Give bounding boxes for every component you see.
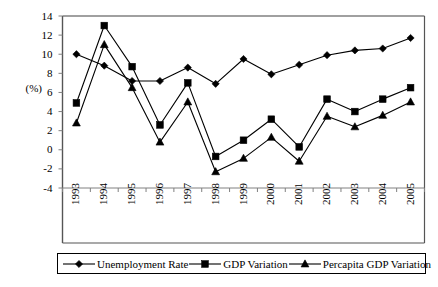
legend-marker-square-icon bbox=[188, 258, 222, 270]
data-point-square bbox=[324, 96, 331, 103]
data-point-diamond bbox=[379, 45, 386, 52]
x-axis-tick-label: 1993 bbox=[70, 183, 81, 205]
data-point-square bbox=[101, 22, 108, 29]
x-axis-tick-label: 2003 bbox=[349, 183, 360, 205]
data-point-square bbox=[157, 122, 164, 129]
legend-marker-triangle-icon bbox=[288, 258, 322, 270]
data-point-square bbox=[73, 100, 80, 107]
legend-label: Percapita GDP Variation bbox=[322, 258, 431, 270]
legend-item-triangle[interactable]: Percapita GDP Variation bbox=[288, 258, 431, 270]
data-point-triangle bbox=[72, 119, 80, 126]
x-axis-tick-label: 2005 bbox=[405, 183, 416, 205]
data-point-triangle bbox=[212, 168, 220, 175]
x-axis-tick-label: 2004 bbox=[377, 183, 388, 205]
data-point-triangle bbox=[267, 133, 275, 140]
data-point-square bbox=[407, 84, 414, 91]
data-point-triangle bbox=[240, 154, 248, 161]
x-axis-tick-label: 1996 bbox=[154, 183, 165, 205]
chart-legend: Unemployment RateGDP VariationPercapita … bbox=[57, 253, 426, 274]
data-point-triangle bbox=[379, 111, 387, 118]
y-axis-tick-label: 10 bbox=[31, 49, 53, 60]
y-axis-tick-label: 12 bbox=[31, 30, 53, 41]
legend-label: Unemployment Rate bbox=[96, 258, 188, 270]
y-axis-tick-label: 8 bbox=[31, 68, 53, 79]
data-point-square bbox=[212, 153, 219, 160]
x-axis-tick-label: 1998 bbox=[210, 183, 221, 205]
data-point-triangle bbox=[184, 98, 192, 105]
x-axis-tick-label: 2000 bbox=[265, 183, 276, 205]
y-axis-tick-label: 0 bbox=[31, 144, 53, 155]
data-point-diamond bbox=[407, 34, 414, 41]
x-axis-tick-label: 1995 bbox=[126, 183, 137, 205]
data-point-square bbox=[129, 63, 136, 70]
legend-label: GDP Variation bbox=[222, 258, 287, 270]
data-point-diamond bbox=[73, 51, 80, 58]
data-point-triangle bbox=[100, 41, 108, 48]
data-point-triangle bbox=[407, 98, 415, 105]
x-axis-tick-label: 2001 bbox=[293, 183, 304, 205]
y-axis-tick-label: -4 bbox=[31, 183, 53, 194]
legend-item-square[interactable]: GDP Variation bbox=[188, 258, 287, 270]
data-point-square bbox=[352, 108, 359, 115]
y-axis-tick-label: -2 bbox=[31, 163, 53, 174]
data-point-diamond bbox=[268, 71, 275, 78]
chart-plot-area bbox=[0, 0, 438, 287]
data-point-square bbox=[240, 137, 247, 144]
x-axis-tick-label: 1994 bbox=[98, 183, 109, 205]
data-point-diamond bbox=[101, 62, 108, 69]
data-point-diamond bbox=[156, 77, 163, 84]
axis-ticks bbox=[59, 16, 425, 192]
y-axis-tick-label: 4 bbox=[31, 106, 53, 117]
legend-marker-diamond-icon bbox=[62, 258, 96, 270]
data-point-diamond bbox=[184, 64, 191, 71]
legend-item-diamond[interactable]: Unemployment Rate bbox=[62, 258, 188, 270]
x-axis-tick-label: 1999 bbox=[238, 183, 249, 205]
series-line-triangle bbox=[76, 45, 410, 172]
data-point-square bbox=[379, 96, 386, 103]
x-axis-tick-label: 2002 bbox=[321, 183, 332, 205]
data-series-group bbox=[72, 22, 414, 174]
data-point-triangle bbox=[128, 84, 136, 91]
data-point-diamond bbox=[296, 61, 303, 68]
data-point-triangle bbox=[323, 112, 331, 119]
data-point-diamond bbox=[323, 52, 330, 59]
data-point-diamond bbox=[351, 47, 358, 54]
y-axis-tick-label: 14 bbox=[31, 11, 53, 22]
data-point-square bbox=[184, 80, 191, 87]
y-axis-tick-label: 2 bbox=[31, 125, 53, 136]
data-point-square bbox=[268, 116, 275, 123]
x-axis-tick-label: 1997 bbox=[182, 183, 193, 205]
y-axis-tick-label: 6 bbox=[31, 87, 53, 98]
plot-frame bbox=[63, 16, 425, 243]
chart-container: (%) 14121086420-2-4 19931994199519961997… bbox=[0, 0, 438, 287]
data-point-square bbox=[296, 144, 303, 151]
